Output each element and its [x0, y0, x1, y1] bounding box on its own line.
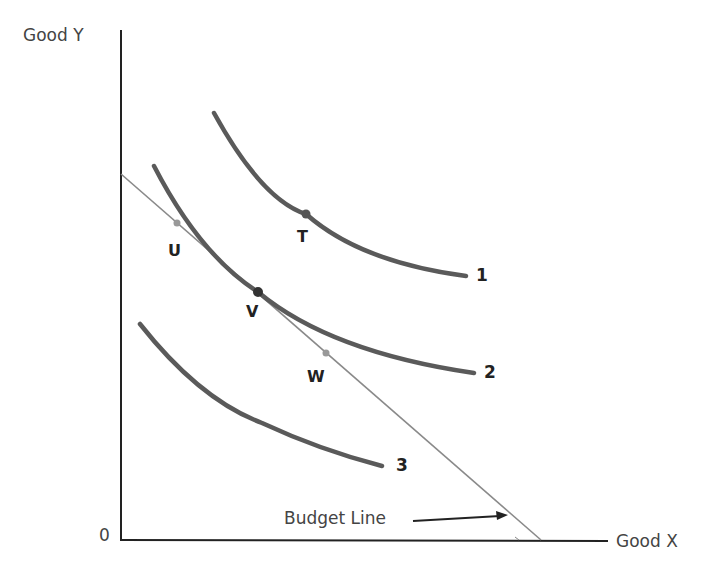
point-u-marker	[174, 220, 181, 227]
curve-1-label: 1	[476, 265, 488, 285]
indifference-diagram	[0, 0, 715, 573]
point-t-label: T	[297, 227, 308, 246]
budget-line-arrow	[413, 516, 500, 521]
y-axis-label: Good Y	[23, 25, 84, 45]
point-w-marker	[323, 350, 330, 357]
curve-3-label: 3	[396, 455, 408, 475]
x-axis-arrow-tail	[515, 537, 519, 540]
indifference-curve-1	[214, 113, 466, 276]
indifference-curve-3	[140, 324, 382, 466]
point-t-marker	[302, 210, 311, 219]
origin-label: 0	[99, 525, 110, 545]
point-v-label: V	[246, 302, 258, 321]
point-w-label: W	[307, 367, 325, 386]
point-v-marker	[253, 287, 263, 297]
arrow-head-icon	[496, 511, 508, 520]
budget-line-label: Budget Line	[284, 508, 386, 528]
curve-2-label: 2	[484, 362, 496, 382]
point-u-label: U	[168, 241, 181, 260]
x-axis	[120, 540, 608, 541]
budget-line	[121, 174, 541, 540]
x-axis-label: Good X	[616, 531, 678, 551]
